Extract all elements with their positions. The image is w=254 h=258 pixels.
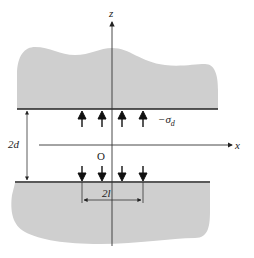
z-axis-label: z xyxy=(108,7,114,19)
arrow-down-icon xyxy=(139,166,147,181)
x-axis-label: x xyxy=(234,139,240,151)
upper-solid-body xyxy=(17,47,218,109)
arrow-down-icon xyxy=(98,166,106,181)
gap-dimension-label: 2d xyxy=(8,138,20,150)
origin-label: O xyxy=(97,150,105,162)
lower-solid-body xyxy=(11,183,210,244)
crack-diagram: z x O 2d −σd 2l xyxy=(0,0,254,258)
arrow-up-icon xyxy=(139,111,147,127)
load-label: −σd xyxy=(158,113,176,128)
upper-load-arrows xyxy=(78,111,147,127)
arrow-down-icon xyxy=(78,166,86,181)
load-width-label: 2l xyxy=(102,187,111,199)
lower-load-arrows xyxy=(78,166,147,181)
arrow-up-icon xyxy=(118,111,126,127)
arrow-up-icon xyxy=(98,111,106,127)
arrow-down-icon xyxy=(118,166,126,181)
arrow-up-icon xyxy=(78,111,86,127)
